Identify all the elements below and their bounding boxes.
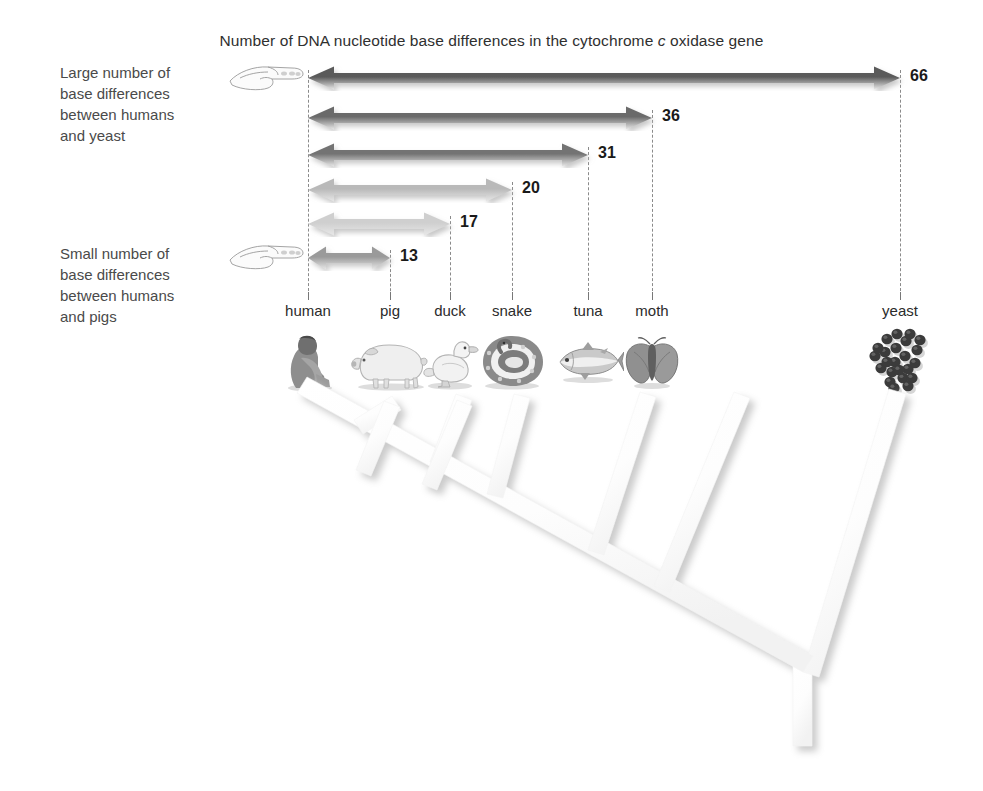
tree-branch-root <box>793 664 812 746</box>
tree-branch-tuna <box>588 392 656 555</box>
tree-branches <box>297 377 906 746</box>
tree-branch-snake <box>487 394 530 498</box>
tree-branch-yeast <box>803 389 906 677</box>
tree-branch-moth <box>654 392 750 592</box>
phylogenetic-tree <box>0 0 983 791</box>
figure-root: Number of DNA nucleotide base difference… <box>0 0 983 791</box>
